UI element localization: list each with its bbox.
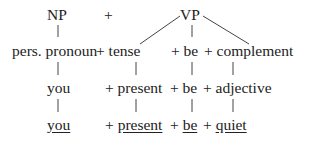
- node-you: you: [47, 80, 70, 96]
- node-be-2: + be: [170, 80, 197, 96]
- node-np: NP: [47, 7, 67, 23]
- terminal-quiet-group: + quiet: [203, 117, 247, 133]
- branch-vp-complement: [203, 16, 249, 44]
- node-present: + present: [105, 80, 162, 96]
- node-be: + be: [171, 43, 198, 59]
- node-complement: + complement: [204, 43, 293, 59]
- plus-sign: +: [170, 116, 183, 133]
- node-vp: VP: [180, 7, 200, 23]
- branch-vp-tense: [140, 16, 180, 44]
- terminal-you: you: [47, 117, 70, 133]
- terminal-be: be: [183, 116, 198, 133]
- plus-sign: +: [104, 7, 113, 23]
- terminal-be-group: + be: [170, 117, 197, 133]
- node-pers-pronoun: pers. pronoun: [12, 43, 97, 59]
- plus-sign: +: [203, 116, 216, 133]
- terminal-present: present: [118, 116, 163, 133]
- node-tense: + tense: [96, 43, 140, 59]
- terminal-quiet: quiet: [216, 116, 247, 133]
- plus-sign: +: [105, 116, 118, 133]
- node-adjective: + adjective: [203, 80, 272, 96]
- terminal-present-group: + present: [105, 117, 162, 133]
